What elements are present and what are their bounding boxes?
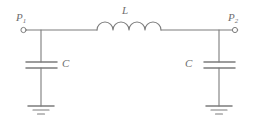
port-p2-label: P2 [228,12,238,23]
inductor-l-coil [97,22,161,30]
port-p2-label-subscript: 2 [235,17,238,24]
port-p1-terminal-circle [21,27,26,32]
port-p2-label-text: P [228,11,235,23]
capacitor-c2-label: C [185,58,192,69]
capacitor-c1-label: C [62,58,69,69]
port-p1-label-subscript: 1 [23,17,26,24]
port-p1-label-text: P [16,11,23,23]
ground-left-symbol [28,106,54,114]
ground-right-symbol [206,106,232,114]
inductor-l-label: L [122,5,128,16]
port-p1-label: P1 [16,12,26,23]
circuit-schematic-canvas [0,0,260,130]
circuit-diagram-figure: P1 P2 L C C [0,0,260,130]
port-p2-terminal-circle [232,27,237,32]
